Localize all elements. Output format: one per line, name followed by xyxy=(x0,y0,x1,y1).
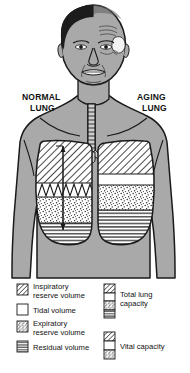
label-aging-lung-line2: LUNG xyxy=(142,103,167,113)
legend-label-irv-line2: reserve volume xyxy=(33,291,85,300)
swatch-stack-vital-capacity-icon xyxy=(104,332,115,359)
swatch-horizontal-lines-icon xyxy=(17,341,28,352)
legend-label-residual-volume: Residual volume xyxy=(33,343,89,352)
label-aging-lung-line1: AGING xyxy=(137,92,166,102)
legend-label-erv-line2: reserve volume xyxy=(33,328,85,337)
swatch-stack-total-lung-capacity-icon xyxy=(104,284,115,318)
legend-label-vital-capacity: Vital capacity xyxy=(120,342,165,351)
aging-tidal-volume xyxy=(90,174,160,185)
legend-label-erv-line1: Expiratory xyxy=(33,319,67,328)
mouth xyxy=(82,70,105,75)
swatch-white-icon xyxy=(17,304,28,315)
lung-volumes-figure: NORMAL LUNG AGING LUNG Inspiratory reser… xyxy=(0,0,190,373)
swatch-diagonal-hatch-icon xyxy=(17,284,28,295)
legend-label-tidal-volume: Tidal volume xyxy=(33,306,76,315)
legend-label-irv-line1: Inspiratory xyxy=(33,282,69,291)
legend-label-tlc-line2: capacity xyxy=(120,299,148,308)
aging-expiratory-reserve-volume xyxy=(90,185,160,210)
label-normal-lung-line1: NORMAL xyxy=(22,92,61,102)
legend-item-residual-volume: Residual volume xyxy=(17,341,89,352)
normal-expiratory-reserve-volume xyxy=(30,197,100,223)
swatch-stipple-icon xyxy=(17,321,28,332)
label-normal-lung-line2: LUNG xyxy=(30,103,55,113)
legend-item-tidal-volume: Tidal volume xyxy=(17,304,76,315)
legend-label-tlc-line1: Total lung xyxy=(120,290,153,299)
